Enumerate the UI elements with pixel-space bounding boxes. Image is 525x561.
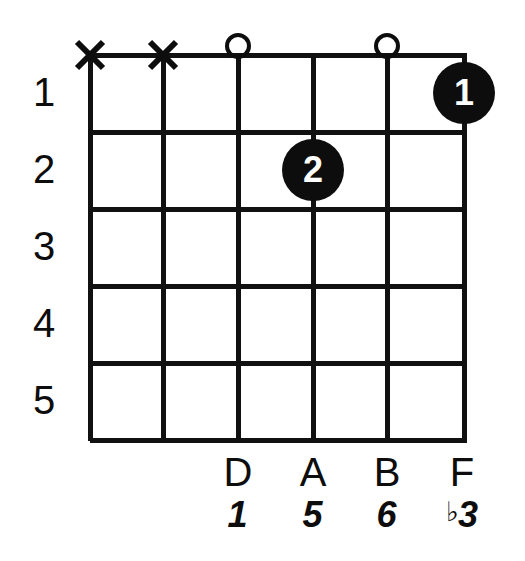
note-name-string-6: F	[427, 452, 497, 492]
scale-degree-value-string-4: 5	[302, 494, 322, 535]
scale-degree-value-string-3: 1	[227, 494, 247, 535]
muted-string-marker-2	[146, 38, 180, 72]
guitar-chord-diagram: 1 2 3 4 5 1 2 D A B F 1 5 6 ♭3	[0, 0, 525, 561]
fret-line-4	[90, 361, 467, 366]
fret-line-5	[90, 438, 467, 443]
scale-degree-string-3: 1	[203, 497, 273, 533]
fret-number-2: 2	[16, 149, 72, 189]
open-string-marker-5	[374, 33, 400, 59]
scale-degree-value-string-5: 6	[376, 494, 396, 535]
fret-number-3: 3	[16, 226, 72, 266]
muted-string-marker-1	[73, 38, 107, 72]
string-line-4	[311, 55, 316, 441]
finger-dot-1: 1	[433, 62, 495, 124]
string-line-3	[236, 55, 241, 441]
fret-line-2	[90, 207, 467, 212]
string-line-5	[385, 55, 390, 441]
string-line-1	[88, 55, 93, 441]
string-line-2	[161, 55, 166, 441]
fret-line-1	[90, 130, 467, 135]
fret-line-3	[90, 284, 467, 289]
scale-degree-string-6: ♭3	[427, 497, 497, 533]
open-string-marker-3	[225, 33, 251, 59]
scale-degree-string-5: 6	[352, 497, 422, 533]
fret-number-1: 1	[16, 72, 72, 112]
fret-number-5: 5	[16, 380, 72, 420]
fret-number-4: 4	[16, 303, 72, 343]
finger-dot-2: 2	[282, 139, 344, 201]
scale-degree-value-string-6: 3	[458, 494, 478, 535]
scale-degree-string-4: 5	[278, 497, 348, 533]
note-name-string-3: D	[203, 452, 273, 492]
note-name-string-5: B	[352, 452, 422, 492]
note-name-string-4: A	[278, 452, 348, 492]
